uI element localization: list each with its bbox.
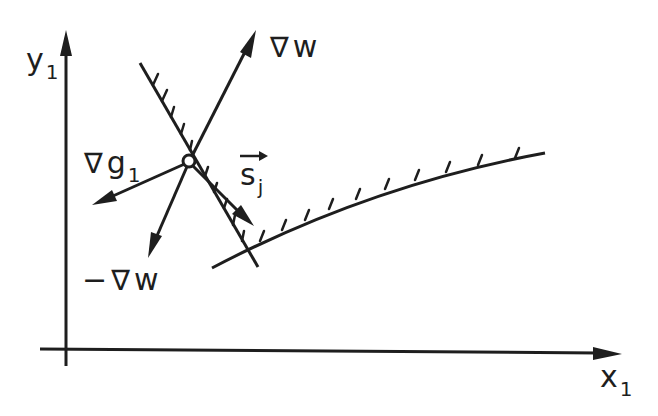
grad-w-arrow	[189, 30, 256, 162]
grad-g1-label-text: g	[107, 145, 126, 180]
x-axis-label-text: x	[600, 359, 618, 394]
grad-g1-label: ∇g1	[84, 148, 141, 178]
search-direction-label-text: s	[240, 157, 256, 192]
nabla-icon: ∇	[270, 31, 289, 64]
search-direction-label-subscript: j	[258, 175, 264, 199]
y-axis-arrowhead-icon	[60, 30, 72, 56]
neg-grad-w-arrowhead-icon	[148, 232, 162, 258]
neg-grad-w-label-text: w	[134, 262, 159, 297]
neg-grad-w-label: −∇w	[82, 265, 158, 295]
neg-grad-w-minus: −	[82, 262, 107, 297]
x-axis-label: x1	[600, 362, 633, 392]
y-axis	[60, 30, 72, 366]
nabla-icon: ∇	[111, 264, 130, 297]
grad-w-label: ∇w	[270, 32, 317, 62]
nabla-icon: ∇	[84, 147, 103, 180]
design-point-marker	[183, 155, 195, 167]
search-direction-label: sj	[240, 160, 263, 190]
grad-g1-label-subscript: 1	[128, 163, 141, 187]
diagram-canvas	[0, 0, 658, 416]
y-axis-label: y1	[26, 45, 59, 75]
x-axis-label-subscript: 1	[620, 377, 633, 401]
grad-g1-arrowhead-icon	[92, 190, 117, 205]
x-axis	[40, 347, 622, 360]
y-axis-label-subscript: 1	[46, 60, 59, 84]
y-axis-label-text: y	[26, 42, 44, 77]
grad-w-label-text: w	[293, 29, 318, 64]
